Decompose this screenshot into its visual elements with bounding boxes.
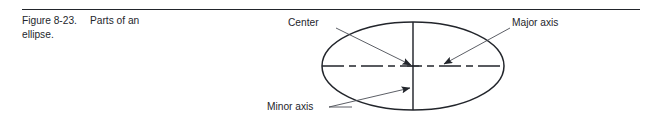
center-leader-line <box>336 28 411 65</box>
label-center: Center <box>288 17 319 28</box>
major-axis-leader-line <box>444 28 510 64</box>
label-major-axis: Major axis <box>512 17 558 28</box>
label-minor-axis: Minor axis <box>267 101 313 112</box>
figure-container: Figure 8-23.Parts of an ellipse. Center … <box>0 0 650 122</box>
ellipse-diagram: Center Major axis Minor axis <box>0 0 650 122</box>
